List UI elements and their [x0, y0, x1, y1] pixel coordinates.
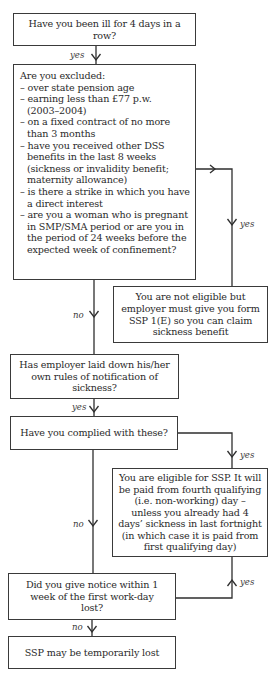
node-text: Have you complied with these? — [20, 427, 168, 439]
node-ill-question: Have you been ill for 4 days in a row? — [13, 13, 196, 46]
node-employer-rules: Has employer laid down his/her own rules… — [10, 354, 179, 399]
node-eligible: You are eligible for SSP. It will be pai… — [112, 468, 268, 557]
node-text: Did you give notice within 1 week of the… — [21, 579, 163, 614]
exclusion-item-continuation: than 3 months — [20, 128, 189, 140]
exclusion-item-continuation: the period of 24 weeks before the — [20, 232, 189, 244]
node-text: Have you been ill for 4 days in a row? — [19, 18, 190, 41]
edge-label-yes: yes — [240, 577, 254, 587]
exclusion-item-continuation: benefits in the last 8 weeks — [20, 151, 189, 163]
exclusion-item: – have you received other DSS — [20, 140, 189, 152]
edge-label-no: no — [73, 519, 84, 529]
exclusion-item-continuation: a direct interest — [20, 198, 189, 210]
exclusion-item: – earning less than £77 p.w. — [20, 93, 189, 105]
exclusion-item-continuation: (sickness or invalidity benefit; — [20, 163, 189, 175]
edge-notice-to-eligible — [175, 556, 232, 598]
exclusion-item-continuation: expected week of confinement? — [20, 244, 189, 256]
node-text: You are eligible for SSP. It will be pai… — [118, 472, 262, 553]
node-title: Are you excluded: — [20, 70, 189, 82]
edge-label-no: no — [72, 622, 83, 632]
node-ssp-lost: SSP may be temporarily lost — [8, 636, 176, 669]
node-excluded: Are you excluded: – over state pension a… — [13, 64, 196, 280]
edge-label-yes: yes — [72, 402, 86, 412]
exclusion-item: – on a fixed contract of no more — [20, 116, 189, 128]
exclusion-item: – over state pension age — [20, 82, 189, 94]
edge-label-yes: yes — [240, 450, 254, 460]
edge-label-yes: yes — [70, 50, 84, 60]
exclusion-item-continuation: maternity allowance) — [20, 174, 189, 186]
node-text: You are not eligible but employer must g… — [120, 291, 261, 337]
exclusion-item: – is there a strike in which you have — [20, 186, 189, 198]
exclusion-item-continuation: in SMP/SMA period or are you in — [20, 221, 189, 233]
edge-label-yes: yes — [240, 219, 254, 229]
node-not-eligible: You are not eligible but employer must g… — [113, 286, 268, 343]
edge-excluded-to-not-eligible — [195, 169, 232, 286]
node-text: Has employer laid down his/her own rules… — [16, 359, 173, 394]
exclusion-item-continuation: (2003–2004) — [20, 105, 189, 117]
edge-complied-to-eligible — [177, 433, 232, 468]
node-notice: Did you give notice within 1 week of the… — [8, 573, 176, 620]
edge-label-no: no — [73, 310, 84, 320]
node-complied: Have you complied with these? — [10, 416, 178, 450]
exclusion-item: – are you a woman who is pregnant — [20, 209, 189, 221]
node-text: SSP may be temporarily lost — [25, 647, 159, 659]
